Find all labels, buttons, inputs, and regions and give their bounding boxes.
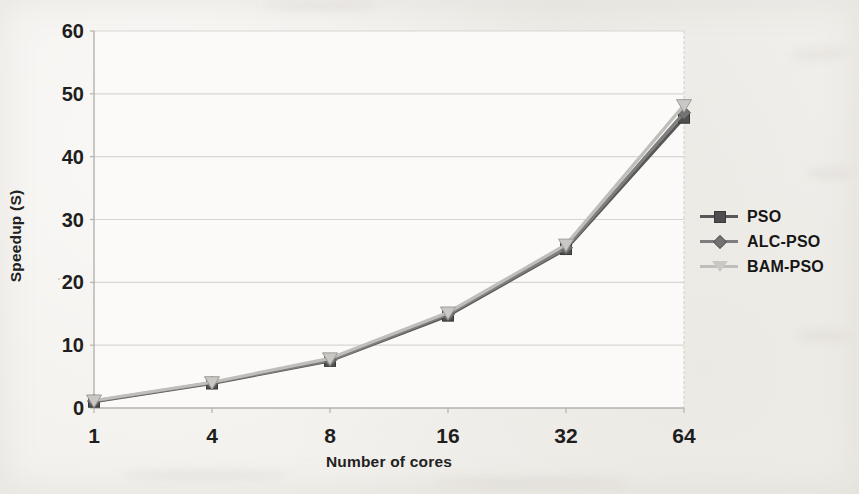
- plot-area: 0102030405060148163264: [62, 20, 696, 447]
- x-tick-label: 64: [672, 424, 696, 447]
- legend-item-pso: PSO: [700, 204, 824, 229]
- y-tick-label: 20: [62, 271, 84, 293]
- bam-pso-line-marker-icon: [700, 258, 740, 275]
- x-axis-tick-labels: 148163264: [88, 408, 696, 447]
- y-tick-label: 10: [62, 334, 84, 356]
- x-axis-title: Number of cores: [326, 453, 452, 470]
- alc-pso-diamond-marker-icon: [713, 235, 727, 249]
- legend-item-bam-pso: BAM-PSO: [700, 254, 824, 279]
- pso-square-marker-icon: [714, 211, 726, 223]
- legend-label-alc-pso: ALC-PSO: [747, 233, 820, 251]
- scanned-document-page: 0102030405060148163264 Speedup (S) Numbe…: [0, 0, 859, 494]
- x-tick-label: 4: [206, 424, 218, 447]
- alc-pso-line-marker-icon: [700, 233, 740, 250]
- x-tick-label: 32: [554, 424, 577, 447]
- y-axis-tick-labels: 0102030405060: [62, 20, 84, 419]
- legend-label-bam-pso: BAM-PSO: [747, 258, 824, 276]
- y-tick-label: 50: [62, 83, 84, 105]
- y-tick-label: 30: [62, 209, 84, 231]
- legend-item-alc-pso: ALC-PSO: [700, 229, 824, 254]
- legend-label-pso: PSO: [747, 208, 781, 226]
- y-tick-label: 0: [73, 397, 84, 419]
- speedup-line-chart: 0102030405060148163264 Speedup (S) Numbe…: [0, 0, 859, 494]
- x-tick-label: 1: [88, 424, 100, 447]
- bam-pso-triangle-marker-icon: [712, 261, 728, 272]
- x-tick-label: 8: [324, 424, 336, 447]
- y-axis-title: Speedup (S): [7, 190, 24, 283]
- x-tick-label: 16: [436, 424, 459, 447]
- y-tick-label: 60: [62, 20, 84, 42]
- y-tick-label: 40: [62, 146, 84, 168]
- chart-legend: PSO ALC-PSO BAM-PSO: [700, 204, 824, 279]
- pso-line-marker-icon: [700, 208, 740, 225]
